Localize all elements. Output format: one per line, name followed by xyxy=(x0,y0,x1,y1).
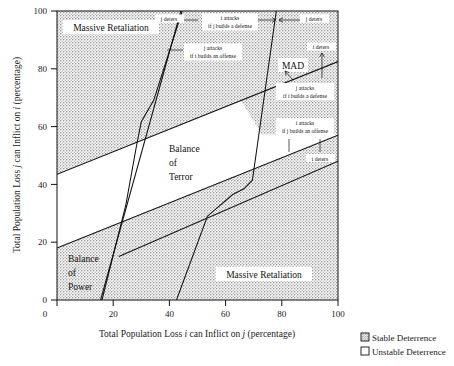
legend-swatch-stable xyxy=(361,333,369,341)
x-tick-label-80: 80 xyxy=(277,309,287,319)
figure-container: 0 20 40 60 80 100 0 20 40 60 80 100 Tota… xyxy=(0,0,454,366)
x-tick-label-0: 0 xyxy=(43,309,48,319)
label-balance-terror-line1: Balance xyxy=(169,144,200,154)
y-axis-title: Total Population Loss j can Inflict on i… xyxy=(12,57,23,253)
label-balance-terror-line3: Terror xyxy=(169,172,193,182)
x-tick-label-100: 100 xyxy=(331,309,345,319)
y-axis-ticks xyxy=(51,11,57,300)
label-balance-power-line2: of xyxy=(68,268,77,278)
label-balance-power-line1: Balance xyxy=(68,254,99,264)
region-label-massive-retaliation-upper: Massive Retaliation xyxy=(63,20,159,34)
annot-j-deters-2: j deters xyxy=(305,16,322,22)
annot-i-attacks-1: i attacks xyxy=(221,15,239,21)
legend-label-stable: Stable Deterrence xyxy=(372,333,436,343)
annot-i-deters-1: i deters xyxy=(313,44,329,50)
region-label-mad: MAD xyxy=(278,58,308,72)
x-tick-label-60: 60 xyxy=(221,309,231,319)
legend-swatch-unstable xyxy=(361,347,369,355)
annot-i-attacks-2: i attacks xyxy=(296,120,314,126)
x-tick-label-20: 20 xyxy=(109,309,119,319)
x-axis-title: Total Population Loss i can Inflict on j… xyxy=(99,329,295,340)
x-tick-label-40: 40 xyxy=(165,309,175,319)
y-axis-tick-labels: 0 20 40 60 80 100 xyxy=(34,6,48,305)
annot-j-attacks-2: j attacks xyxy=(295,85,314,91)
annot-if-i-builds-defense-1: if i builds a defense xyxy=(283,93,327,99)
y-tick-label-100: 100 xyxy=(34,6,48,16)
annot-if-j-builds-defense-1: if j builds a defense xyxy=(208,23,252,29)
y-tick-label-80: 80 xyxy=(38,64,48,74)
label-balance-terror-line2: of xyxy=(169,158,178,168)
x-axis-ticks xyxy=(57,300,338,306)
annot-i-deters-2: i deters xyxy=(312,156,328,162)
label-mad: MAD xyxy=(282,61,304,71)
annot-j-attacks-1: j attacks xyxy=(203,45,222,51)
region-label-massive-retaliation-lower: Massive Retaliation xyxy=(216,267,312,281)
y-tick-label-0: 0 xyxy=(43,295,48,305)
annot-if-j-builds-offense-1: if j builds an offense xyxy=(282,128,328,134)
label-massive-retaliation-lower: Massive Retaliation xyxy=(226,270,302,280)
x-axis-tick-labels: 0 20 40 60 80 100 xyxy=(43,309,346,319)
deterrence-chart: 0 20 40 60 80 100 0 20 40 60 80 100 Tota… xyxy=(0,0,454,366)
y-tick-label-20: 20 xyxy=(38,237,48,247)
label-massive-retaliation-upper: Massive Retaliation xyxy=(73,23,149,33)
y-tick-label-60: 60 xyxy=(38,122,48,132)
label-balance-power-line3: Power xyxy=(68,282,93,292)
legend: Stable Deterrence Unstable Deterrence xyxy=(361,333,446,357)
legend-label-unstable: Unstable Deterrence xyxy=(372,347,446,357)
annot-if-i-builds-offense-1: if i builds an offense xyxy=(190,53,236,59)
y-tick-label-40: 40 xyxy=(38,180,48,190)
annot-j-deters-1: j deters xyxy=(160,16,177,22)
